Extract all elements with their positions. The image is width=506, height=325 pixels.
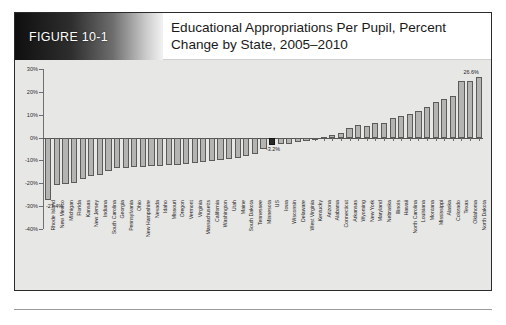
bar	[54, 138, 60, 185]
x-category-label: Illinois	[395, 200, 401, 214]
x-category-label: Pennsylvania	[128, 200, 134, 231]
x-category-label: Arizona	[326, 200, 332, 218]
bar	[372, 123, 378, 138]
bar	[329, 135, 335, 138]
bar	[355, 125, 361, 137]
x-category-label: New York	[369, 200, 375, 222]
x-category-label: Washington	[222, 200, 228, 227]
x-category-label: Alabama	[334, 200, 340, 220]
bar	[200, 138, 206, 162]
x-category-label: Florida	[76, 200, 82, 216]
bar	[321, 137, 327, 139]
category-label-group: Rhode IslandNew MexicoMichiganFloridaKan…	[44, 60, 483, 122]
x-category-label: Montana	[429, 200, 435, 220]
bar	[123, 138, 129, 168]
x-category-label: Maryland	[377, 200, 383, 221]
figure-number-label: FIGURE 10-1	[15, 30, 108, 44]
bar	[166, 138, 172, 166]
bar	[286, 138, 292, 144]
x-category-label: Tennessee	[257, 200, 263, 225]
x-category-label: Connecticut	[343, 200, 349, 227]
x-category-label: Missouri	[171, 200, 177, 219]
figure-header: FIGURE 10-1 Educational Appropriations P…	[15, 13, 491, 60]
x-category-label: New Mexico	[59, 200, 65, 228]
bar	[131, 138, 137, 168]
bar	[312, 138, 318, 140]
x-category-label: North Carolina	[412, 200, 418, 233]
bar	[174, 138, 180, 165]
y-tick	[39, 229, 43, 230]
bar-us-highlight	[269, 138, 275, 145]
bar	[157, 138, 163, 166]
y-tick-label: -20%	[25, 180, 38, 186]
x-category-label: Vermont	[188, 200, 194, 219]
x-category-label: Oregon	[179, 200, 185, 217]
bar	[183, 138, 189, 165]
y-tick-label: -10%	[25, 157, 38, 163]
x-category-label: Idaho	[162, 200, 168, 213]
y-tick-label: -40%	[25, 226, 38, 232]
x-category-label: Louisiana	[420, 200, 426, 222]
x-category-label: Michigan	[68, 200, 74, 221]
y-tick	[39, 183, 43, 184]
y-tick-label: 0%	[30, 135, 38, 141]
bar	[346, 128, 352, 138]
bar	[140, 138, 146, 167]
x-category-label: Utah	[231, 200, 237, 211]
x-category-label: Mississippi	[438, 200, 444, 225]
x-category-label: North Dakota	[481, 200, 487, 231]
bar	[278, 138, 284, 145]
x-category-label: Kentucky	[317, 200, 323, 221]
x-category-label: West Virginia	[309, 200, 315, 230]
bar	[295, 138, 301, 143]
bar	[80, 138, 86, 179]
bar	[226, 138, 232, 159]
y-tick-label: 10%	[27, 112, 38, 118]
bar	[303, 138, 309, 141]
bar	[243, 138, 249, 156]
y-tick-label: 20%	[27, 89, 38, 95]
x-category-label: Minnesota	[266, 200, 272, 224]
x-category-label: Nebraska	[386, 200, 392, 222]
x-category-label: Kansas	[85, 200, 91, 217]
x-category-label: Delaware	[300, 200, 306, 222]
y-tick-label: 30%	[27, 66, 38, 72]
figure-page: FIGURE 10-1 Educational Appropriations P…	[0, 0, 506, 325]
x-category-label: Wisconsin	[291, 200, 297, 224]
footer-divider	[14, 309, 492, 310]
x-category-label: Ohio	[136, 200, 142, 211]
x-category-label: Massachusetts	[205, 200, 211, 235]
x-category-label: Maine	[240, 200, 246, 214]
bar	[192, 138, 198, 164]
y-tick-label: -30%	[25, 203, 38, 209]
bar	[97, 138, 103, 175]
x-category-label: South Dakota	[248, 200, 254, 231]
bar	[148, 138, 154, 167]
x-category-label: Virginia	[197, 200, 203, 217]
bar	[217, 138, 223, 160]
y-tick	[39, 206, 43, 207]
x-category-label: South Carolina	[111, 200, 117, 234]
y-tick	[39, 160, 43, 161]
bar	[71, 138, 77, 183]
bar	[381, 123, 387, 137]
x-category-label: Wyoming	[360, 200, 366, 222]
bar	[62, 138, 68, 184]
y-tick	[39, 69, 43, 70]
x-category-label: Georgia	[119, 200, 125, 218]
bar	[88, 138, 94, 176]
y-tick	[39, 92, 43, 93]
x-category-label: Texas	[463, 200, 469, 214]
x-category-label: Nevada	[154, 200, 160, 218]
x-category-label: US	[274, 200, 280, 207]
figure-title: Educational Appropriations Per Pupil, Pe…	[171, 19, 483, 53]
x-category-label: Rhode Island	[50, 200, 56, 231]
chart-panel: 30%20%10%0%-10%-20%-30%-40% -27.4%-3.2%2…	[15, 60, 491, 290]
x-category-label: Colorado	[455, 200, 461, 221]
x-category-label: Iowa	[283, 200, 289, 211]
x-category-label: New Hampshire	[145, 200, 151, 237]
x-category-label: Indiana	[102, 200, 108, 217]
figure-number-badge: FIGURE 10-1	[15, 13, 163, 60]
x-category-label: Hawaii	[403, 200, 409, 216]
bar	[235, 138, 241, 159]
